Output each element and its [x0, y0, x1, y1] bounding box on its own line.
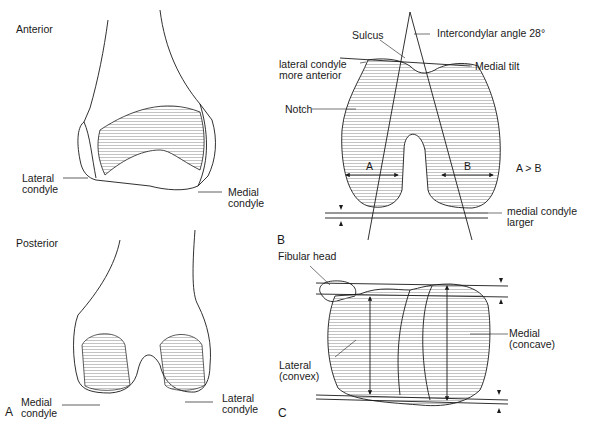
medial-condyle-larger-label-line2: larger [507, 217, 534, 228]
notch-label: Notch [285, 104, 312, 115]
anterior-view-title: Anterior [16, 24, 53, 35]
posterior-lateral-condyle-label-line2: condyle [222, 404, 258, 415]
femur-anterior-drawing [78, 10, 216, 190]
femur-distal-drawing [342, 59, 501, 208]
panel-a-letter: A [5, 405, 13, 419]
medial-tilt-label: Medial tilt [475, 61, 519, 72]
sulcus-label: Sulcus [352, 30, 384, 41]
medial-concave-label-line2: (concave) [509, 339, 555, 350]
femur-posterior-drawing [74, 230, 211, 393]
anterior-lateral-condyle-label-line2: condyle [22, 184, 58, 195]
intercondylar-angle-label: Intercondylar angle 28° [437, 28, 545, 39]
posterior-view-title: Posterior [16, 238, 58, 249]
width-b-label: B [464, 161, 471, 172]
panel-c-letter: C [278, 406, 287, 420]
anterior-medial-condyle-label-line2: condyle [228, 198, 264, 209]
tibial-plateau-drawing [320, 281, 490, 406]
panel-b-letter: B [277, 233, 285, 247]
fibular-head-label: Fibular head [278, 251, 336, 262]
width-a-label: A [366, 161, 373, 172]
a-greater-than-b-label: A > B [516, 163, 541, 174]
lateral-condyle-anterior-label-line2: more anterior [279, 70, 341, 81]
lateral-convex-label-line2: (convex) [279, 371, 319, 382]
posterior-medial-condyle-label-line2: condyle [21, 408, 57, 419]
